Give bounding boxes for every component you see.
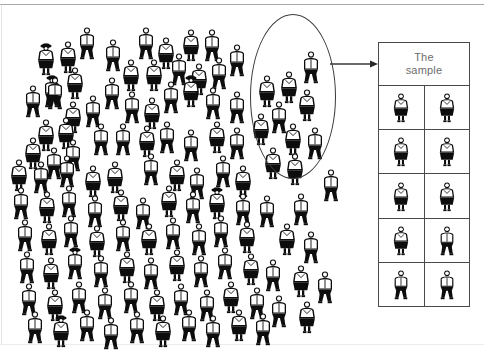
person-figure-male (90, 254, 112, 288)
sample-row (379, 219, 469, 263)
sample-cell-male (425, 263, 470, 306)
person-figure-male (22, 84, 44, 118)
sample-row (379, 130, 469, 174)
person-figure-male (90, 122, 112, 156)
person-figure-male (60, 214, 82, 248)
person-figure-male (120, 280, 142, 314)
person-figure-female (166, 248, 188, 282)
person-figure-female (138, 222, 160, 256)
person-figure-male (391, 269, 411, 300)
person-figure-female (36, 190, 58, 224)
person-figure-male (156, 120, 178, 154)
sample-row (379, 263, 469, 306)
person-figure-female (35, 42, 57, 76)
person-figure-female (152, 314, 174, 348)
sample-cell-female (425, 130, 470, 173)
sample-grid (379, 86, 469, 306)
person-figure-female (437, 181, 457, 212)
person-figure-male (304, 126, 326, 160)
person-figure-male (56, 154, 78, 188)
person-figure-male (256, 194, 278, 228)
person-figure-female (86, 224, 108, 258)
frame-bottom-divider (0, 344, 484, 345)
person-figure-female (38, 222, 60, 256)
person-figure-male (140, 256, 162, 290)
person-figure-male (30, 160, 52, 194)
frame-top-divider (0, 4, 484, 5)
sample-row (379, 174, 469, 218)
person-figure-female (82, 164, 104, 198)
person-figure-female (290, 264, 312, 298)
person-figure-male (437, 225, 457, 256)
person-figure-male (214, 246, 236, 280)
person-figure-female (276, 222, 298, 256)
person-figure-male (300, 230, 322, 264)
person-figure-male (100, 316, 122, 350)
person-figure-male (178, 308, 200, 342)
sample-cell-male (425, 219, 470, 262)
person-figure-male (268, 294, 290, 328)
the-sample-box: The sample (378, 42, 470, 307)
person-figure-female (236, 220, 258, 254)
person-figure-male (162, 216, 184, 250)
person-figure-male (58, 184, 80, 218)
sample-cell-female (425, 174, 470, 217)
sample-cell-female (379, 130, 425, 173)
person-figure-female (120, 58, 142, 92)
person-figure-female (391, 136, 411, 167)
person-figure-female (284, 152, 306, 186)
person-figure-male (76, 26, 98, 60)
person-figure-male (16, 250, 38, 284)
sample-box-title: The sample (379, 43, 469, 86)
person-figure-female (110, 188, 132, 222)
person-figure-female (391, 181, 411, 212)
person-figure-male (212, 154, 234, 188)
person-figure-male (320, 168, 342, 202)
person-figure-male (121, 90, 143, 124)
person-figure-male (112, 218, 134, 252)
person-figure-male (135, 26, 157, 60)
person-figure-male (182, 190, 204, 224)
person-figure-female (240, 252, 262, 286)
person-figure-male (84, 194, 106, 228)
person-figure-female (158, 184, 180, 218)
sample-cell-female (379, 219, 425, 262)
person-figure-male (437, 269, 457, 300)
person-figure-female (262, 146, 284, 180)
person-figure-female (250, 112, 272, 146)
person-figure-female (437, 136, 457, 167)
person-figure-female (50, 314, 72, 348)
person-figure-female (296, 88, 318, 122)
person-figure-male (208, 56, 230, 90)
person-figure-male (202, 314, 224, 348)
person-figure-female (282, 122, 304, 156)
person-figure-male (160, 80, 182, 114)
person-figure-male (188, 222, 210, 256)
person-figure-male (14, 218, 36, 252)
person-figure-male (180, 128, 202, 162)
person-figure-male (64, 246, 86, 280)
person-figure-female (437, 92, 457, 123)
sample-arrow-icon (330, 58, 380, 70)
person-figure-female (391, 92, 411, 123)
sample-cell-male (379, 263, 425, 306)
person-figure-male (210, 214, 232, 248)
diagram-canvas: The sample (0, 0, 484, 350)
sample-cell-female (425, 86, 470, 129)
sample-cell-female (379, 86, 425, 129)
person-figure-male (190, 254, 212, 288)
sample-cell-female (379, 174, 425, 217)
person-figure-male (314, 270, 336, 304)
person-figure-male (24, 310, 46, 344)
person-figure-female (40, 256, 62, 290)
person-figure-female (296, 300, 318, 334)
person-figure-female (228, 308, 250, 342)
person-figure-male (101, 76, 123, 110)
person-figure-male (10, 186, 32, 220)
person-figure-female (116, 250, 138, 284)
person-figure-male (76, 308, 98, 342)
person-figure-male (126, 310, 148, 344)
person-figure-female (391, 225, 411, 256)
person-figure-male (112, 122, 134, 156)
person-figure-male (262, 258, 284, 292)
